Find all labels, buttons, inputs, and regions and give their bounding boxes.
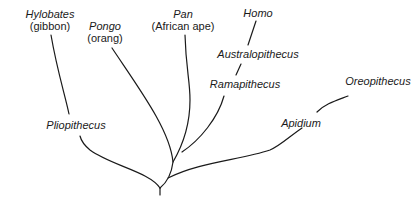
node-hylobates: Hylobates (gibbon) [26,8,75,32]
branch-ramapithecus [182,96,224,152]
node-homo: Homo [243,7,272,19]
node-hylobates-genus: Hylobates [26,8,75,20]
node-australopithecus-genus: Australopithecus [217,48,298,60]
node-pliopithecus-genus: Pliopithecus [46,119,105,131]
node-apidium: Apidium [281,117,321,129]
node-hylobates-common: (gibbon) [26,20,75,32]
branch-hylobates [51,35,69,114]
node-pongo-common: (orang) [87,32,122,44]
node-oreopithecus: Oreopithecus [345,75,410,87]
node-homo-genus: Homo [243,7,272,19]
node-pan: Pan (African ape) [152,8,215,32]
node-pan-common: (African ape) [152,20,215,32]
node-pongo: Pongo (orang) [87,20,122,44]
node-pliopithecus: Pliopithecus [46,119,105,131]
node-apidium-genus: Apidium [281,117,321,129]
branch-pliopithecus [80,136,160,188]
branch-pongo [112,48,173,188]
node-oreopithecus-genus: Oreopithecus [345,75,410,87]
node-pan-genus: Pan [173,8,193,20]
phylogenetic-tree: Hylobates (gibbon) Pongo (orang) Pan (Af… [0,0,420,209]
node-pongo-genus: Pongo [89,20,121,32]
node-ramapithecus-genus: Ramapithecus [210,78,280,90]
branch-homo [248,21,256,45]
node-ramapithecus: Ramapithecus [210,78,280,90]
branch-pan [173,35,190,162]
node-australopithecus: Australopithecus [217,48,298,60]
branch-oreopithecus [317,96,348,112]
branch-apidium [168,128,302,178]
branch-australopithecus [236,64,241,75]
